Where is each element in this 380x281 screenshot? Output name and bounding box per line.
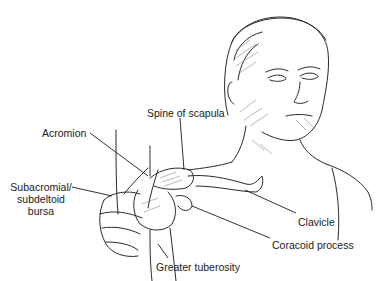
label-bursa-line1: Subacromial/ <box>8 181 74 193</box>
label-coracoid-process: Coracoid process <box>272 239 354 251</box>
label-greater-tuberosity: Greater tuberosity <box>156 261 240 273</box>
label-spine-of-scapula: Spine of scapula <box>147 107 225 119</box>
shoulder-anatomy-diagram: Spine of scapula Acromion Subacromial/ s… <box>0 0 380 281</box>
label-bursa-line3: bursa <box>8 205 74 217</box>
label-clavicle: Clavicle <box>298 216 335 228</box>
label-subacromial-bursa: Subacromial/ subdeltoid bursa <box>8 181 74 217</box>
label-bursa-line2: subdeltoid <box>8 193 74 205</box>
label-acromion: Acromion <box>42 127 86 139</box>
